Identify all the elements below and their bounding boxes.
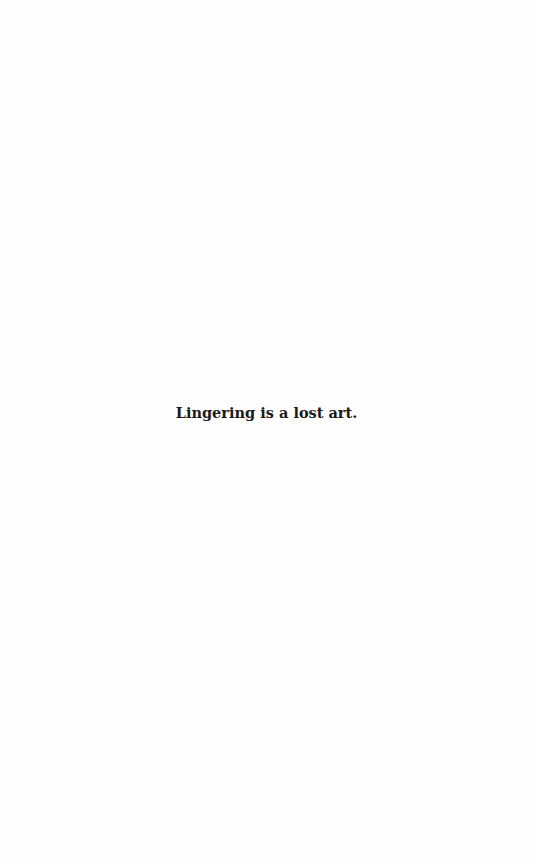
book-page: Lingering is a lost art. xyxy=(0,0,533,864)
epigraph-text: Lingering is a lost art. xyxy=(0,404,533,421)
